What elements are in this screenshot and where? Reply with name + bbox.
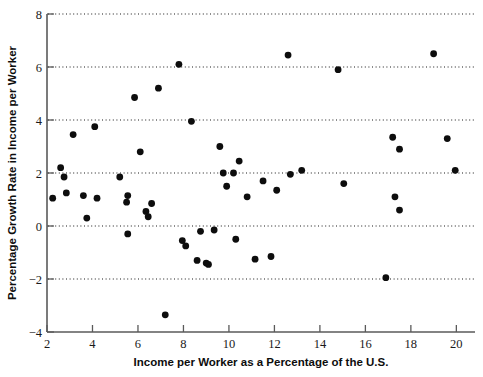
data-point bbox=[430, 50, 437, 57]
scatter-plot-figure: 2468101214161820 −4−202468 Income per Wo… bbox=[0, 0, 483, 377]
data-point bbox=[335, 66, 342, 73]
data-point bbox=[260, 178, 267, 185]
x-tick-label: 20 bbox=[450, 337, 463, 351]
plot-canvas: 2468101214161820 −4−202468 Income per Wo… bbox=[0, 0, 483, 377]
data-point bbox=[205, 261, 212, 268]
data-point bbox=[176, 61, 183, 68]
y-tick-label-group: −4−202468 bbox=[29, 8, 43, 340]
data-point bbox=[392, 193, 399, 200]
x-tick-label: 10 bbox=[223, 337, 236, 351]
data-point bbox=[389, 134, 396, 141]
data-point bbox=[216, 143, 223, 150]
data-point bbox=[396, 146, 403, 153]
data-point bbox=[298, 167, 305, 174]
data-point bbox=[188, 118, 195, 125]
data-point bbox=[91, 123, 98, 130]
data-point bbox=[162, 311, 169, 318]
x-tick-label: 2 bbox=[44, 337, 50, 351]
data-point bbox=[252, 256, 259, 263]
data-point bbox=[287, 171, 294, 178]
y-tick-label: 0 bbox=[36, 220, 42, 234]
data-point bbox=[244, 193, 251, 200]
gridlines-group bbox=[48, 14, 474, 279]
data-point bbox=[211, 227, 218, 234]
data-point bbox=[61, 174, 68, 181]
x-tick-label-group: 2468101214161820 bbox=[44, 337, 463, 351]
data-point bbox=[131, 94, 138, 101]
data-point bbox=[63, 189, 70, 196]
x-tick-label: 12 bbox=[268, 337, 281, 351]
y-tick-label: −2 bbox=[29, 273, 42, 287]
data-point bbox=[273, 187, 280, 194]
y-axis-title: Percentage Growth Rate in Income per Wor… bbox=[6, 45, 18, 300]
data-point bbox=[124, 231, 131, 238]
y-tick-label: 6 bbox=[36, 61, 42, 75]
x-tick-label: 16 bbox=[359, 337, 372, 351]
data-point bbox=[268, 253, 275, 260]
data-point bbox=[57, 164, 64, 171]
data-point bbox=[83, 215, 90, 222]
x-tick-group bbox=[47, 325, 456, 332]
data-point bbox=[452, 167, 459, 174]
data-point bbox=[123, 199, 130, 206]
data-point bbox=[285, 52, 292, 59]
x-tick-label: 6 bbox=[135, 337, 141, 351]
y-tick-label: 4 bbox=[36, 114, 43, 128]
x-tick-label: 14 bbox=[314, 337, 327, 351]
x-tick-label: 4 bbox=[89, 337, 96, 351]
data-point bbox=[194, 257, 201, 264]
y-tick-label: −4 bbox=[29, 326, 43, 340]
data-point bbox=[382, 274, 389, 281]
x-tick-label: 8 bbox=[180, 337, 186, 351]
x-axis-title: Income per Worker as a Percentage of the… bbox=[134, 356, 389, 368]
data-point bbox=[230, 170, 237, 177]
data-point bbox=[137, 148, 144, 155]
y-tick-label: 2 bbox=[36, 167, 42, 181]
data-points-group bbox=[49, 50, 458, 318]
data-point bbox=[444, 135, 451, 142]
data-point bbox=[340, 180, 347, 187]
data-point bbox=[155, 85, 162, 92]
data-point bbox=[197, 228, 204, 235]
data-point bbox=[49, 195, 56, 202]
data-point bbox=[220, 170, 227, 177]
data-point bbox=[396, 207, 403, 214]
data-point bbox=[148, 200, 155, 207]
data-point bbox=[94, 195, 101, 202]
x-tick-label: 18 bbox=[405, 337, 418, 351]
y-tick-label: 8 bbox=[36, 8, 42, 22]
data-point bbox=[116, 174, 123, 181]
data-point bbox=[223, 183, 230, 190]
y-tick-group bbox=[47, 14, 54, 332]
data-point bbox=[232, 236, 239, 243]
data-point bbox=[236, 158, 243, 165]
data-point bbox=[182, 242, 189, 249]
data-point bbox=[124, 192, 131, 199]
data-point bbox=[80, 192, 87, 199]
data-point bbox=[145, 213, 152, 220]
data-point bbox=[70, 131, 77, 138]
